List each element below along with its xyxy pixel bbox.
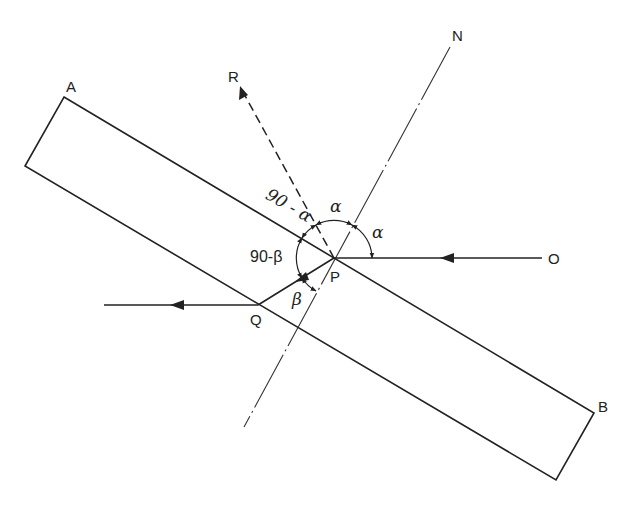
label-p: P	[330, 268, 340, 285]
label-r: R	[228, 68, 239, 85]
label-q: Q	[250, 311, 262, 328]
angle-arc-90-minus-alpha	[302, 225, 316, 238]
reflected-ray	[243, 92, 334, 258]
label-beta: β	[291, 289, 302, 309]
label-b: B	[598, 398, 608, 415]
angle-arc-90-minus-beta	[296, 238, 302, 278]
angle-arc-alpha-right	[352, 225, 372, 258]
emergent-ray-arrowhead	[170, 300, 184, 310]
label-90-minus-beta: 90-β	[250, 248, 282, 265]
diagram-svg: A B N R O P Q α α 90 - α 90-β β	[0, 0, 631, 514]
label-a: A	[66, 78, 76, 95]
angle-arc-alpha-top	[316, 220, 352, 225]
label-alpha-top: α	[330, 196, 342, 216]
normal-line	[244, 47, 450, 427]
incident-ray-arrowhead	[440, 253, 454, 263]
slab	[25, 97, 594, 480]
diagram-canvas: A B N R O P Q α α 90 - α 90-β β	[0, 0, 631, 514]
label-alpha-right: α	[372, 222, 384, 242]
label-o: O	[548, 250, 560, 267]
label-n: N	[452, 27, 463, 44]
